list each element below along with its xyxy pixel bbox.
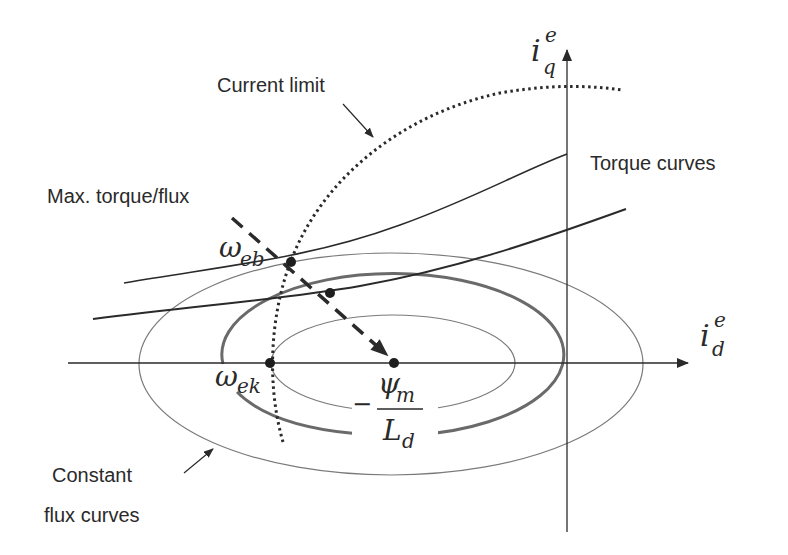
current-limit-label: Current limit (217, 74, 325, 96)
constant-flux-label-top: Constant (52, 464, 132, 486)
svg-text:L: L (382, 414, 402, 447)
omega-ek-label: ω ek (215, 360, 261, 398)
svg-text:e: e (714, 308, 726, 332)
max-torque-flux-trajectory (232, 218, 387, 355)
constant-flux-label-bottom: flux curves (44, 504, 140, 526)
svg-text:ek: ek (237, 374, 261, 398)
omega-eb-label: ω eb (219, 231, 265, 271)
svg-text:q: q (543, 55, 556, 79)
id-axis-label: i e d (700, 308, 726, 361)
constant-flux-pointer (184, 449, 213, 473)
svg-text:i: i (700, 318, 710, 353)
svg-text:−: − (352, 390, 372, 418)
middle-flux-ellipse-lower (237, 392, 350, 433)
svg-text:d: d (712, 337, 725, 361)
torque-curve-lower (93, 209, 626, 319)
svg-text:ω: ω (215, 360, 238, 393)
svg-text:e: e (545, 23, 557, 47)
point-omega-eb (286, 257, 296, 267)
point-omega-ek (265, 358, 275, 368)
svg-text:m: m (396, 383, 415, 407)
svg-text:i: i (531, 33, 541, 68)
torque-curves (93, 154, 626, 319)
iq-axis-label: i e q (531, 23, 557, 79)
max-torque-flux-label: Max. torque/flux (47, 185, 189, 207)
flux-weakening-diagram: Current limit Torque curves Max. torque/… (0, 0, 788, 555)
svg-text:ω: ω (219, 231, 242, 264)
current-limit-pointer (343, 104, 373, 137)
point-mid-intersection (325, 288, 335, 298)
torque-curves-label: Torque curves (590, 152, 716, 174)
current-limit-curve (273, 86, 622, 442)
svg-text:d: d (402, 429, 415, 453)
svg-text:eb: eb (240, 247, 265, 271)
